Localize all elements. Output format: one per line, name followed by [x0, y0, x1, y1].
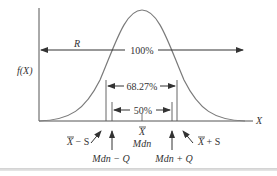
x-minus-s-pointer	[91, 131, 101, 143]
bottom-divider	[0, 168, 277, 171]
range-percent: 100%	[130, 45, 153, 56]
q-percent: 50%	[134, 105, 152, 116]
x-axis-label: X	[255, 115, 263, 126]
x-plus-s-pointer	[183, 131, 193, 143]
sd-percent: 68.27%	[127, 81, 158, 92]
mdn-plus-q-label: Mdn + Q	[154, 153, 193, 164]
normal-distribution-diagram: f(X) X R 100% 68.27% 50% X Mdn X − S X +…	[0, 0, 277, 176]
median-label: Mdn	[132, 138, 151, 149]
mean-label: X	[138, 126, 146, 137]
x-plus-s-label: X + S	[197, 136, 220, 147]
y-axis-label: f(X)	[17, 65, 33, 77]
x-minus-s-label: X − S	[66, 136, 89, 147]
range-label: R	[73, 38, 80, 49]
mdn-minus-q-label: Mdn − Q	[91, 153, 130, 164]
